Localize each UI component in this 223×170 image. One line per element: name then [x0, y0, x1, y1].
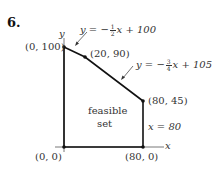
region-label-line1: feasible: [88, 106, 127, 116]
vertex-80-0: [141, 145, 145, 149]
equation-line1-fraction: 12: [110, 24, 116, 37]
point-label-80-45: (80, 45): [148, 96, 188, 106]
y-axis-label: y: [59, 29, 65, 39]
vertex-80-45: [141, 99, 145, 103]
equation-line1-lhs: y = −: [80, 24, 109, 35]
vertex-20-90: [83, 55, 87, 59]
point-label-20-90: (20, 90): [90, 49, 130, 59]
equation-line2-lhs: y = −: [136, 59, 165, 70]
vertex-0-0: [62, 145, 66, 149]
equation-line3: x = 80: [148, 122, 181, 132]
arrowhead-line1: [75, 42, 79, 47]
equation-line2-rhs: x + 105: [173, 59, 212, 70]
equation-line1-rhs: x + 100: [117, 24, 156, 35]
equation-line2-fraction: 34: [166, 59, 172, 72]
point-label-0-0: (0, 0): [35, 152, 62, 162]
problem-number: 6.: [7, 16, 21, 29]
feasible-region-boundary: [64, 47, 143, 147]
region-label-line2: set: [97, 119, 112, 129]
x-axis-label: x: [165, 141, 171, 151]
equation-line1: y = −12x + 100: [80, 24, 156, 37]
equation-line2: y = −34x + 105: [136, 59, 212, 72]
pointer-line2: [123, 66, 133, 78]
point-label-0-100: (0, 100): [25, 42, 65, 52]
point-label-80-0: (80, 0): [125, 152, 158, 162]
